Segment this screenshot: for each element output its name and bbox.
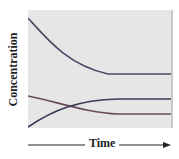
curves [28, 10, 171, 128]
plot-area [28, 10, 173, 128]
y-axis-label: Concentration [6, 25, 21, 115]
x-axis: Time [28, 137, 171, 153]
curve-reactant-high [28, 18, 171, 74]
x-axis-label: Time [85, 136, 119, 151]
